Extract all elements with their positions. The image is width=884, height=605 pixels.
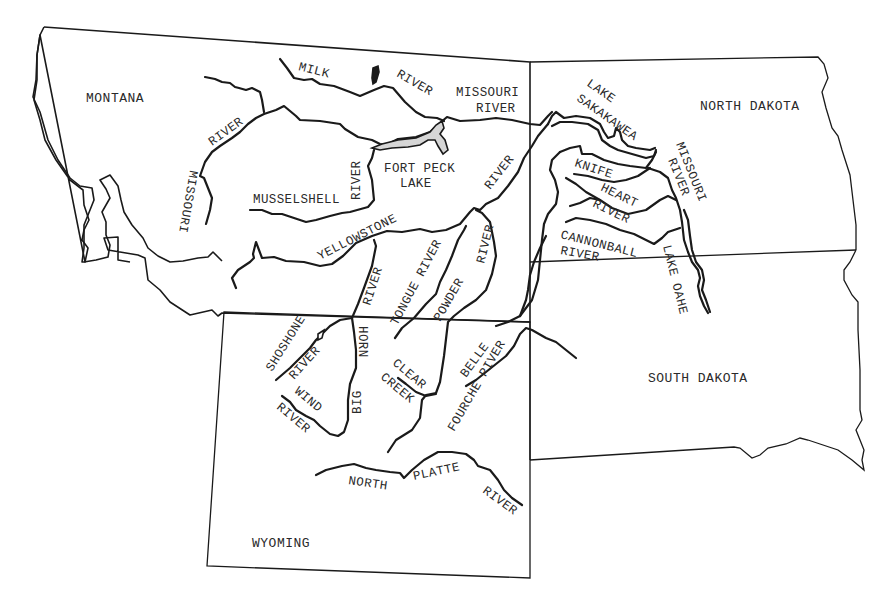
label-musselshell-river: RIVER bbox=[350, 160, 364, 200]
label-fort-peck: FORT PECK bbox=[384, 162, 455, 176]
south-dakota-border bbox=[530, 250, 864, 470]
lake-oahe bbox=[684, 210, 710, 312]
label-missouri-river-top-2: RIVER bbox=[476, 102, 516, 116]
label-yellowstone-river: RIVER bbox=[482, 153, 517, 193]
state-label-south-dakota: SOUTH DAKOTA bbox=[648, 371, 748, 386]
label-platte-river: RIVER bbox=[480, 484, 520, 519]
small-reservoir bbox=[372, 66, 379, 84]
state-label-wyoming: WYOMING bbox=[252, 536, 310, 551]
state-label-montana: MONTANA bbox=[86, 91, 144, 106]
label-milk-river: RIVER bbox=[394, 67, 435, 99]
label-lake-oahe: LAKE OAHE bbox=[659, 244, 690, 316]
label-shoshone-river: RIVER bbox=[287, 344, 324, 383]
label-bighorn-big: BIG bbox=[351, 390, 365, 414]
label-missouri-mt: MISSOURI bbox=[175, 169, 200, 234]
label-fort-peck-lake: LAKE bbox=[400, 177, 432, 191]
label-bighorn-horn: HORN bbox=[355, 326, 369, 358]
lake-sakakawea-south-shore bbox=[552, 122, 656, 158]
label-milk: MILK bbox=[297, 60, 331, 81]
label-missouri-river-top: MISSOURI bbox=[456, 86, 519, 100]
label-musselshell: MUSSELSHELL bbox=[253, 193, 340, 207]
missouri-upper-fork bbox=[205, 77, 264, 112]
label-yellowstone: YELLOWSTONE bbox=[315, 212, 399, 264]
north-dakota-border bbox=[530, 57, 856, 250]
label-north: NORTH bbox=[347, 474, 388, 493]
shoshone-lake bbox=[318, 330, 324, 340]
river-map: MONTANA NORTH DAKOTA SOUTH DAKOTA WYOMIN… bbox=[0, 0, 884, 605]
label-powder: POWDER bbox=[431, 276, 467, 324]
western-nd-stream bbox=[520, 152, 560, 316]
state-label-north-dakota: NORTH DAKOTA bbox=[700, 99, 800, 114]
